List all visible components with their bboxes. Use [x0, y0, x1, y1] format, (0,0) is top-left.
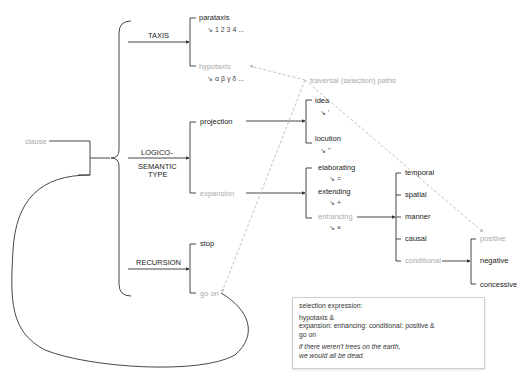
recursion-loop-curve	[12, 175, 249, 367]
logico-label-line3: TYPE	[148, 170, 168, 179]
projection-bracket	[306, 100, 312, 143]
recursion-system-label: RECURSION	[136, 258, 181, 267]
note-line-expansion: expansion: enhancing: conditional: posit…	[299, 322, 478, 331]
note-example-line1: if there weren't trees on the earth,	[299, 343, 478, 352]
recursion-bracket	[190, 244, 196, 293]
path-to-hypotaxis	[250, 66, 305, 80]
and-brace	[111, 21, 131, 296]
option-idea: idea	[315, 96, 330, 105]
logico-bracket	[190, 122, 196, 193]
hypotaxis-notation: ↘ α β γ δ ...	[207, 75, 244, 83]
idea-notation: ↘ '	[320, 109, 329, 116]
path-to-positive	[305, 80, 483, 232]
option-elaborating: elaborating	[318, 163, 355, 172]
option-projection: projection	[200, 117, 233, 126]
option-manner: manner	[405, 212, 431, 221]
enhancing-bracket	[396, 173, 401, 261]
elaborating-notation: ↘ =	[329, 175, 341, 182]
option-expansion: expansion	[200, 189, 234, 198]
option-negative: negative	[480, 256, 508, 265]
conditional-bracket	[471, 239, 476, 284]
locution-notation: ↘ "	[320, 147, 331, 154]
parataxis-notation: ↘ 1 2 3 4 ...	[207, 26, 244, 33]
note-example-line2: we would all be dead.	[299, 352, 478, 361]
root-entry-line	[49, 141, 90, 175]
root-clause-label: clause	[25, 137, 47, 146]
option-causal: causal	[405, 234, 427, 243]
option-stop: stop	[200, 239, 214, 248]
traversal-paths-label: traversal (selection) paths	[310, 76, 396, 85]
path-to-go-on	[222, 80, 305, 292]
note-line-go-on: go on	[299, 331, 478, 340]
option-extending: extending	[318, 187, 351, 196]
option-parataxis: parataxis	[199, 13, 230, 22]
option-locution: locution	[315, 134, 341, 143]
option-hypotaxis: hypotaxis	[199, 62, 231, 71]
option-concessive: concessive	[480, 280, 517, 289]
expansion-bracket	[306, 168, 312, 218]
option-conditional: conditional	[405, 256, 441, 265]
taxis-bracket	[190, 18, 196, 66]
note-title: selection expression:	[299, 302, 478, 311]
option-go-on: go on	[200, 289, 219, 298]
note-line-hypotaxis: hypotaxis &	[299, 314, 478, 323]
selection-expression-note: selection expression: hypotaxis & expans…	[292, 297, 485, 369]
enhancing-notation: ↘ ×	[329, 224, 341, 231]
logico-label-line1: LOGICO-	[141, 148, 173, 157]
extending-notation: ↘ +	[329, 199, 341, 206]
option-spatial: spatial	[405, 190, 427, 199]
taxis-system-label: TAXIS	[148, 31, 169, 40]
option-positive: positive	[480, 234, 505, 243]
option-enhancing: enhancing	[318, 212, 353, 221]
